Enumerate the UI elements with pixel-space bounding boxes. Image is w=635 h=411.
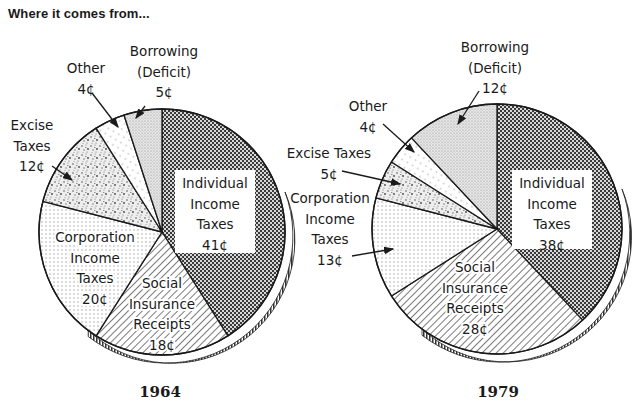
pie-1979: IndividualIncomeTaxes38¢SocialInsuranceR… [280, 38, 631, 362]
label-line: Income [190, 196, 240, 212]
label-line: Borrowing [461, 39, 529, 55]
label-line: Individual [519, 175, 585, 191]
label-line: Taxes [532, 216, 570, 232]
label-line: Social [455, 259, 495, 275]
slice-label-corporation-income-taxes: CorporationIncomeTaxes20¢ [50, 228, 140, 310]
label-line: Borrowing [130, 43, 198, 59]
pie-1979-year-label: 1979 [477, 383, 519, 401]
slice-label-individual-income-taxes: IndividualIncomeTaxes38¢ [512, 170, 592, 253]
pie-1964: IndividualIncomeTaxes41¢SocialInsuranceR… [6, 42, 295, 363]
label-line: Receipts [133, 316, 190, 332]
label-line: Income [305, 211, 355, 227]
label-line: Corporation [290, 190, 370, 206]
label-line: 12¢ [482, 80, 508, 96]
label-line: Taxes [75, 270, 113, 286]
slice-label-social-insurance-receipts: SocialInsuranceReceipts28¢ [438, 258, 512, 340]
label-line: (Deficit) [137, 64, 191, 80]
label-line: 12¢ [19, 158, 45, 174]
label-line: 28¢ [462, 321, 488, 337]
label-line: Excise [11, 117, 54, 133]
label-line: (Deficit) [468, 60, 522, 76]
label-line: Taxes [195, 216, 233, 232]
label-line: 4¢ [359, 119, 376, 135]
label-line: Individual [182, 175, 248, 191]
label-line: 5¢ [155, 84, 172, 100]
pie-charts-canvas: IndividualIncomeTaxes41¢SocialInsuranceR… [0, 0, 635, 411]
label-line: Taxes [310, 231, 348, 247]
chart-figure: Where it comes from... [0, 0, 635, 411]
label-line: 41¢ [202, 237, 228, 253]
slice-label-excise-taxes: Excise Taxes5¢ [280, 144, 400, 186]
label-line: Insurance [442, 280, 508, 296]
slice-label-other: Other4¢ [346, 97, 414, 152]
label-line: Other [67, 60, 106, 76]
slice-label-borrowing-deficit: Borrowing(Deficit)5¢ [127, 42, 201, 118]
label-line: 38¢ [539, 237, 565, 253]
label-line: 18¢ [149, 337, 175, 353]
label-line: Corporation [55, 229, 135, 245]
label-line: 4¢ [77, 81, 94, 97]
slice-label-other: Other4¢ [64, 59, 118, 127]
pie-1964-year-label: 1964 [139, 383, 181, 401]
label-line: Income [527, 196, 577, 212]
label-line: 5¢ [320, 166, 337, 182]
label-line: Social [142, 275, 182, 291]
label-line: 20¢ [82, 291, 108, 307]
label-line: Excise Taxes [287, 145, 371, 161]
label-line: Receipts [446, 300, 503, 316]
slice-label-individual-income-taxes: IndividualIncomeTaxes41¢ [175, 170, 255, 253]
label-line: Taxes [12, 138, 50, 154]
label-line: Income [70, 250, 120, 266]
label-line: Other [349, 98, 388, 114]
label-line: 13¢ [317, 252, 343, 268]
